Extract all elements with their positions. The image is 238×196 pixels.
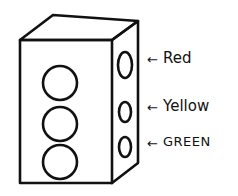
front-light-middle	[43, 107, 77, 141]
front-light-bottom	[43, 145, 77, 179]
label-green: Green	[163, 135, 211, 148]
arrow-left-icon: ←	[147, 101, 158, 114]
arrow-left-icon: ←	[147, 53, 158, 66]
front-light-top	[43, 66, 77, 100]
side-light-green	[119, 137, 131, 157]
box-top-face	[20, 15, 138, 40]
arrow-left-icon: ←	[147, 137, 158, 150]
side-light-red	[118, 52, 132, 78]
side-light-yellow	[119, 102, 131, 122]
box-front-face	[20, 40, 112, 183]
label-yellow: Yellow	[163, 99, 209, 114]
label-red: Red	[163, 51, 192, 66]
